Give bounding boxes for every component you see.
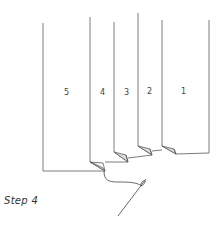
thread — [104, 171, 142, 186]
panel-2 — [128, 13, 152, 158]
needle-icon — [118, 179, 146, 216]
panel-4-label: 4 — [100, 88, 105, 97]
folded-pages-diagram: 5 4 3 2 1 — [0, 0, 219, 225]
panel-3-label: 3 — [124, 88, 129, 97]
panel-1-label: 1 — [181, 87, 186, 96]
panel-5-label: 5 — [64, 88, 69, 97]
panel-2-label: 2 — [147, 87, 152, 96]
step-caption: Step 4 — [4, 195, 38, 206]
panel-5 — [43, 23, 105, 171]
